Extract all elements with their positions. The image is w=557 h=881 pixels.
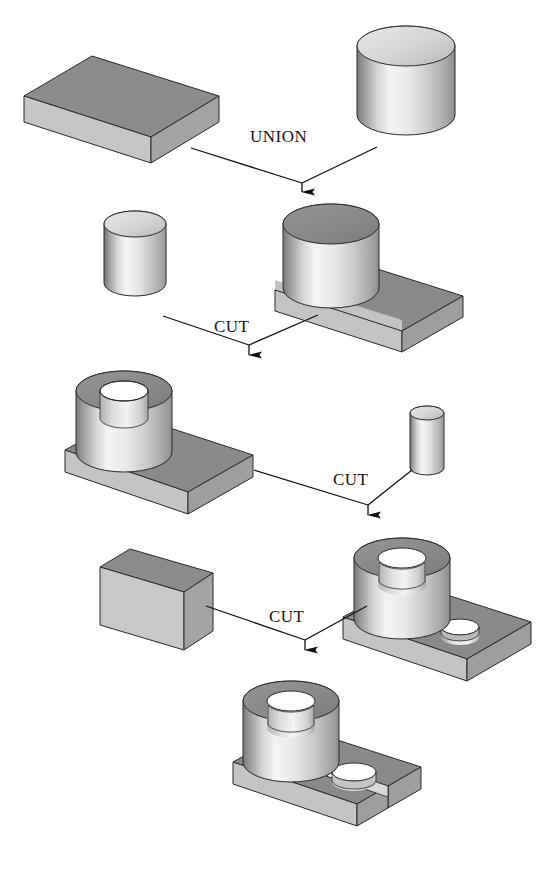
op-label-cut-1: CUT (214, 317, 250, 337)
op-label-union: UNION (250, 127, 307, 147)
shape-cylinder-large (357, 26, 455, 135)
shape-boss-plus-hole (343, 538, 531, 681)
op-label-cut-3: CUT (269, 607, 305, 627)
shape-union-result (275, 204, 463, 352)
shape-block-plate (24, 56, 219, 163)
shape-cylinder-medium (104, 211, 166, 296)
shape-block-slot-tool (100, 549, 213, 650)
shape-final-part (233, 681, 444, 826)
shape-tube-on-plate (65, 371, 253, 514)
shape-cylinder-small (410, 406, 444, 475)
op-label-cut-2: CUT (333, 470, 369, 490)
